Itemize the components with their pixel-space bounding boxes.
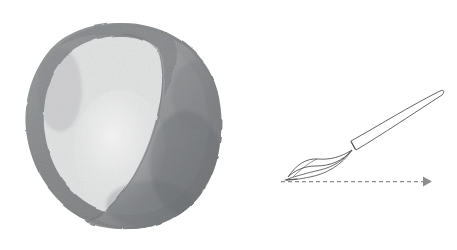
paintbrush-diagram (285, 90, 444, 180)
wash-texture (20, 18, 230, 234)
direction-arrowhead-icon (423, 177, 432, 187)
figure-root: Watercolor crescent stroke with paintbru… (0, 0, 457, 250)
illustration-canvas (0, 0, 457, 250)
brush-contact-tip (285, 179, 297, 180)
watercolor-ring-stroke (20, 18, 230, 234)
brush-handle (351, 90, 444, 150)
